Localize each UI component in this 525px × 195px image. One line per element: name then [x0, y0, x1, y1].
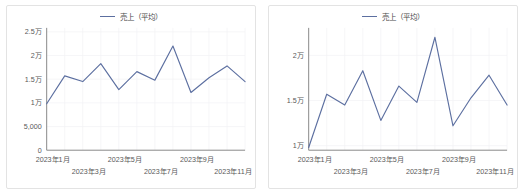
- x-axis-tick-label: 2023年3月: [334, 167, 368, 176]
- series-line-sales-average: [47, 46, 245, 104]
- x-axis-tick-label: 2023年11月: [476, 167, 513, 176]
- x-axis-tick-label: 2023年9月: [180, 155, 214, 164]
- y-axis-tick-label: 1.5万: [287, 97, 304, 105]
- chart-panel-left-frame: 売上（平均） 05,0001万1.5万2万2.5万2023年1月2023年5月2…: [6, 5, 256, 189]
- x-axis-tick-label: 2023年7月: [406, 167, 440, 176]
- line-chart-svg-left: 05,0001万1.5万2万2.5万2023年1月2023年5月2023年9月2…: [7, 6, 255, 188]
- y-axis-tick-label: 2万: [293, 52, 304, 60]
- x-axis-tick-label: 2023年1月: [298, 155, 332, 164]
- y-axis-tick-label: 1万: [293, 142, 304, 150]
- x-axis-tick-label: 2023年3月: [72, 167, 106, 176]
- y-axis-tick-label: 5,000: [24, 123, 42, 131]
- x-axis-tick-label: 2023年7月: [144, 167, 178, 176]
- x-axis-tick-label: 2023年5月: [108, 155, 142, 164]
- x-axis-tick-label: 2023年1月: [36, 155, 70, 164]
- line-chart-svg-right: 1万1.5万2万2023年1月2023年5月2023年9月2023年3月2023…: [269, 6, 517, 188]
- chart-panel-right-frame: 売上（平均） 1万1.5万2万2023年1月2023年5月2023年9月2023…: [268, 5, 518, 189]
- series-line-sales-average: [309, 37, 507, 147]
- chart-panel-right: 売上（平均） 1万1.5万2万2023年1月2023年5月2023年9月2023…: [262, 0, 524, 195]
- x-axis-tick-label: 2023年11月: [214, 167, 251, 176]
- x-axis-tick-label: 2023年9月: [442, 155, 476, 164]
- y-axis-tick-label: 0: [38, 147, 42, 155]
- plot-area-left: 05,0001万1.5万2万2.5万2023年1月2023年5月2023年9月2…: [7, 6, 255, 188]
- chart-panel-left: 売上（平均） 05,0001万1.5万2万2.5万2023年1月2023年5月2…: [0, 0, 262, 195]
- x-axis-tick-label: 2023年5月: [370, 155, 404, 164]
- y-axis-tick-label: 1.5万: [25, 76, 42, 84]
- dual-chart-board: 売上（平均） 05,0001万1.5万2万2.5万2023年1月2023年5月2…: [0, 0, 525, 195]
- plot-area-right: 1万1.5万2万2023年1月2023年5月2023年9月2023年3月2023…: [269, 6, 517, 188]
- y-axis-tick-label: 1万: [31, 99, 42, 107]
- y-axis-tick-label: 2万: [31, 52, 42, 60]
- y-axis-tick-label: 2.5万: [25, 28, 42, 36]
